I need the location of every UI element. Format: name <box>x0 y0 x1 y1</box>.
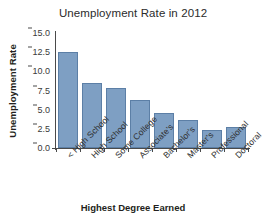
y-axis-tick-mark <box>28 28 32 29</box>
y-axis-tick-mark <box>28 47 32 48</box>
y-axis-tick-mark <box>28 66 32 67</box>
y-axis-tick-label: 5.0 <box>37 105 56 115</box>
y-axis-tick-label: 7.5 <box>37 86 56 96</box>
y-axis-tick-label: 10.0 <box>32 66 56 76</box>
y-axis-tick-label: 15.0 <box>32 28 56 38</box>
y-axis-tick-label: 12.5 <box>32 47 56 57</box>
bar[interactable] <box>58 52 78 148</box>
y-axis-tick-mark <box>33 143 37 144</box>
chart-title: Unemployment Rate in 2012 <box>0 7 266 19</box>
chart-figure: Unemployment Rate in 2012 Unemployment R… <box>0 0 266 224</box>
y-axis-tick-mark <box>33 104 37 105</box>
y-axis-tick-label: 0.0 <box>37 143 56 153</box>
x-axis-title: Highest Degree Earned <box>0 202 266 213</box>
y-axis-title-container: Unemployment Rate <box>4 33 20 149</box>
plot-area: 0.02.55.07.510.012.515.0 <box>56 33 248 148</box>
y-axis-title: Unemployment Rate <box>7 44 18 138</box>
y-axis-tick-mark <box>33 123 37 124</box>
y-axis-tick-mark <box>33 85 37 86</box>
x-axis-tick-mark <box>56 148 57 152</box>
y-axis-tick-label: 2.5 <box>37 124 56 134</box>
